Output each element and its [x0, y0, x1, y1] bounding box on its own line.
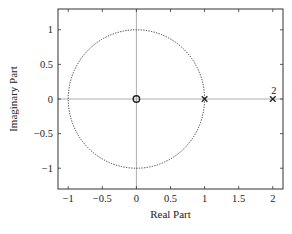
pole-zero-chart: −1−0.500.511.5210.50−0.5−1Real PartImagi… — [0, 0, 292, 234]
x-tick-label: 0.5 — [164, 193, 177, 204]
y-tick-label: 0 — [48, 94, 53, 105]
x-tick-label: −0.5 — [93, 193, 112, 204]
x-tick-label: 1.5 — [232, 193, 245, 204]
y-tick-label: −0.5 — [34, 128, 53, 139]
pole-multiplicity-label: 2 — [271, 85, 276, 96]
y-tick-label: −1 — [42, 163, 53, 174]
x-tick-label: 2 — [270, 193, 275, 204]
y-tick-label: 0.5 — [40, 59, 53, 70]
x-tick-label: 1 — [202, 193, 207, 204]
x-axis-label: Real Part — [150, 208, 191, 220]
x-tick-label: −1 — [63, 193, 74, 204]
x-tick-label: 0 — [134, 193, 139, 204]
y-tick-label: 1 — [48, 24, 53, 35]
y-axis-label: Imaginary Part — [7, 66, 19, 132]
